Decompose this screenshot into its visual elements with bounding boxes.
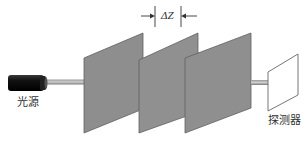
light-beam-input [44, 80, 86, 85]
detector-screen [268, 54, 298, 111]
light-source-icon [8, 75, 48, 91]
phase-plate-1 [84, 33, 143, 133]
detector-label: 探测器 [268, 115, 301, 126]
optical-diagram [0, 0, 306, 142]
light-source-label: 光源 [17, 97, 39, 108]
light-beam-output [251, 80, 269, 85]
delta-z-label: ΔZ [161, 10, 174, 21]
